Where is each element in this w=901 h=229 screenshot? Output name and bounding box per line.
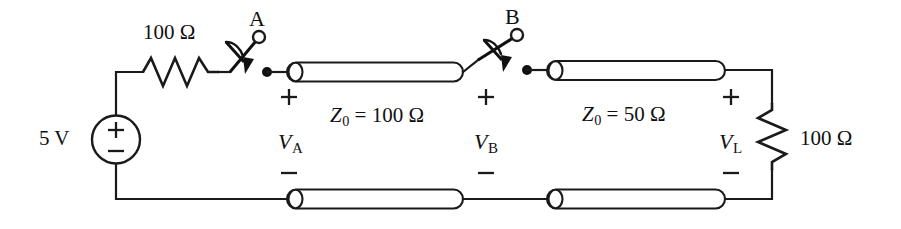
line1-bottom-left-cap [289,190,303,208]
line2-z0-value: = 50 Ω [607,102,666,126]
line2-top-left-cap [549,61,563,79]
switch-b-terminal-open [511,29,523,41]
switch-a-label: A [249,8,265,30]
line2-bottom-left-cap [549,190,563,208]
switch-a-terminal-open [253,31,265,43]
vl-subscript: L [732,140,742,156]
line2-z0-symbol: Z [582,102,594,126]
source-value-label: 5 V [39,128,70,149]
vb-label: VB [474,131,498,156]
line1-bottom-conductor [287,190,463,209]
source-resistor-label: 100 Ω [143,22,195,43]
line2-top-conductor [547,61,725,80]
vb-subscript: B [487,140,497,156]
wire-load-to-bottom-rail [725,170,772,199]
switch-b-arrowhead [501,55,512,72]
switch-a-arrowhead [243,57,254,74]
line1-z0-symbol: Z [330,103,342,127]
wire-source-bottom [116,157,287,199]
vl-label: VL [719,131,742,156]
line1-z0-subscript: 0 [342,113,350,129]
load-resistor-symbol [758,103,786,170]
va-subscript: A [291,140,302,156]
line2-bottom-conductor [547,190,725,209]
line2-z0-subscript: 0 [594,112,602,128]
va-symbol: V [278,129,291,154]
va-label: VA [278,131,303,156]
vb-symbol: V [474,129,487,154]
wire-source-to-resistor [116,72,143,122]
source-resistor-symbol [143,58,219,86]
load-resistor-label: 100 Ω [800,128,852,149]
line1-z0-label: Z0 = 100 Ω [330,105,424,128]
switch-b-label: B [505,6,520,28]
circuit-diagram: 100 Ω A B 5 V Z0 = 100 Ω Z0 = 50 Ω VA VB… [0,0,901,229]
line1-z0-value: = 100 Ω [355,103,424,127]
vl-symbol: V [719,129,732,154]
wire-line1-to-switch-b [463,60,478,72]
circuit-schematic-canvas [0,0,901,229]
line1-top-left-cap [289,63,303,81]
line2-z0-label: Z0 = 50 Ω [582,104,666,127]
line1-top-conductor [287,63,463,82]
